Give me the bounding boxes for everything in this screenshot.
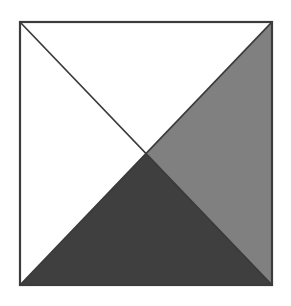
figure-canvas: Square divided by both diagonals into fo… xyxy=(0,0,291,306)
divided-square-figure xyxy=(0,0,291,306)
